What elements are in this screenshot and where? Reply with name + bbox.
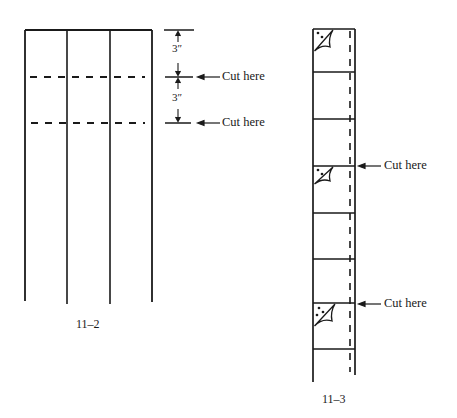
diagram-canvas [0,0,457,418]
corner-leaf-icon [315,30,334,51]
figure-11-3-drawing [313,29,381,382]
cut-here-label: Cut here [384,297,427,310]
cut-arrow-icon [359,164,382,307]
dimension-label: 3″ [172,43,182,54]
figure-caption: 11–3 [322,393,346,405]
cut-here-label: Cut here [222,116,265,129]
cut-here-label: Cut here [222,70,265,83]
figure-11-2-drawing [25,30,220,304]
corner-leaf-icon [315,167,334,184]
cut-here-label: Cut here [384,159,427,172]
corner-leaf-icon [315,304,336,326]
strip-block-lines [313,29,355,349]
figure-caption: 11–2 [76,318,100,330]
cut-arrow-icon [198,75,221,126]
dimension-label: 3″ [172,92,182,103]
